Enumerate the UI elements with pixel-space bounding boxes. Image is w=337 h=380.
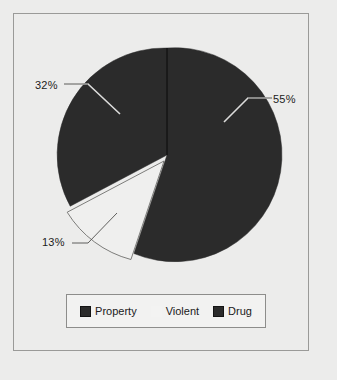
data-label-violent-percent: 13% bbox=[42, 236, 65, 248]
pie-chart-figure: 32% 55% 13% Property Violent Drug bbox=[0, 0, 337, 380]
data-label-property-percent: 32% bbox=[35, 79, 58, 91]
legend-swatch-property-icon bbox=[80, 306, 91, 317]
legend-item-property[interactable]: Property bbox=[80, 305, 137, 317]
legend-label-property: Property bbox=[95, 305, 137, 317]
legend-swatch-drug-icon bbox=[213, 306, 224, 317]
data-label-drug-percent: 55% bbox=[273, 93, 296, 105]
legend-label-drug: Drug bbox=[228, 305, 252, 317]
legend-swatch-violent-icon bbox=[151, 306, 162, 317]
legend-item-drug[interactable]: Drug bbox=[213, 305, 252, 317]
chart-legend: Property Violent Drug bbox=[66, 294, 266, 328]
legend-item-violent[interactable]: Violent bbox=[151, 305, 199, 317]
legend-label-violent: Violent bbox=[166, 305, 199, 317]
